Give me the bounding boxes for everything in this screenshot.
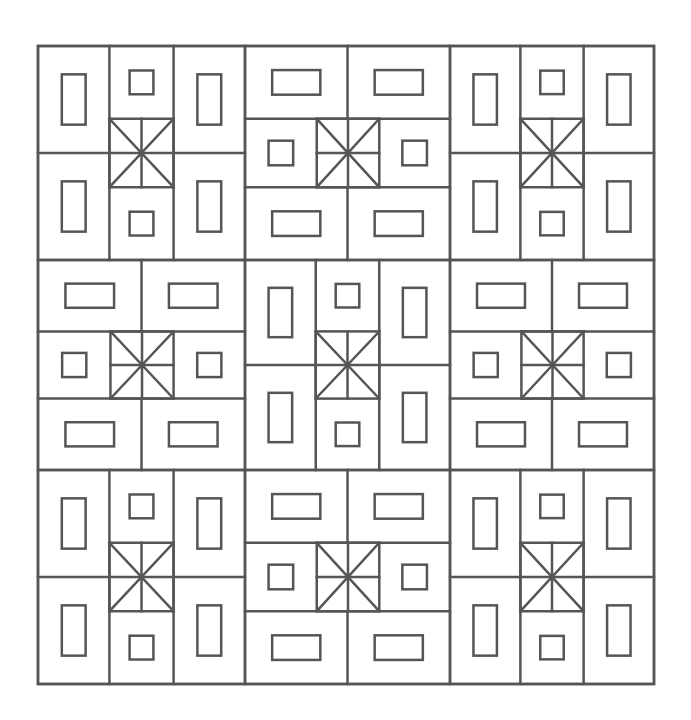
wide-rectangle	[272, 635, 320, 660]
quilt-block-vertical	[38, 46, 245, 260]
tall-rectangle	[607, 605, 630, 655]
wide-rectangle	[579, 284, 627, 308]
tall-rectangle	[62, 74, 86, 124]
small-square	[540, 71, 563, 94]
tall-rectangle	[62, 181, 86, 231]
tall-rectangle	[607, 74, 630, 124]
tall-rectangle	[607, 498, 630, 548]
tall-rectangle	[197, 74, 221, 124]
tall-rectangle	[403, 393, 427, 442]
tall-rectangle	[473, 74, 496, 124]
wide-rectangle	[65, 284, 114, 308]
small-square	[607, 353, 631, 377]
small-square	[336, 284, 360, 308]
small-square	[540, 212, 563, 235]
small-square	[540, 495, 563, 518]
small-square	[269, 141, 294, 166]
tall-rectangle	[269, 288, 293, 337]
small-square	[197, 353, 221, 377]
wide-rectangle	[477, 422, 525, 446]
tall-rectangle	[62, 498, 86, 548]
tall-rectangle	[197, 181, 221, 231]
small-square	[402, 565, 427, 590]
tall-rectangle	[197, 605, 221, 655]
small-square	[130, 212, 154, 236]
quilt-block-horizontal	[450, 260, 654, 470]
wide-rectangle	[477, 284, 525, 308]
wide-rectangle	[272, 211, 320, 236]
wide-rectangle	[169, 284, 218, 308]
quilt-block-vertical	[450, 46, 654, 260]
quilt-block-horizontal	[38, 260, 245, 470]
tall-rectangle	[473, 181, 496, 231]
small-square	[130, 70, 154, 94]
tall-rectangle	[403, 288, 427, 337]
small-square	[62, 353, 86, 377]
small-square	[336, 423, 360, 447]
wide-rectangle	[272, 70, 320, 95]
quilt-diagram	[0, 0, 691, 720]
tall-rectangle	[473, 498, 496, 548]
wide-rectangle	[375, 70, 423, 95]
tall-rectangle	[62, 605, 86, 655]
wide-rectangle	[579, 422, 627, 446]
small-square	[474, 353, 498, 377]
wide-rectangle	[65, 422, 114, 446]
quilt-block-vertical	[450, 470, 654, 684]
wide-rectangle	[375, 635, 423, 660]
small-square	[402, 141, 427, 166]
wide-rectangle	[375, 494, 423, 519]
quilt-block-vertical	[38, 470, 245, 684]
tall-rectangle	[197, 498, 221, 548]
tall-rectangle	[607, 181, 630, 231]
quilt-block-horizontal	[245, 470, 450, 684]
small-square	[540, 636, 563, 659]
wide-rectangle	[272, 494, 320, 519]
small-square	[130, 494, 154, 518]
wide-rectangle	[169, 422, 218, 446]
wide-rectangle	[375, 211, 423, 236]
small-square	[130, 636, 154, 660]
quilt-block-vertical	[245, 260, 450, 470]
tall-rectangle	[473, 605, 496, 655]
small-square	[269, 565, 294, 590]
tall-rectangle	[269, 393, 293, 442]
quilt-block-horizontal	[245, 46, 450, 260]
